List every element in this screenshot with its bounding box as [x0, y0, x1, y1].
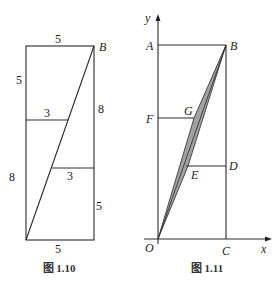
caption-left: 图 1.10	[43, 262, 77, 274]
label-point-c: C	[222, 244, 231, 258]
label-left-lower: 8	[9, 170, 15, 184]
label-right-lower: 5	[96, 199, 102, 213]
label-point-d: D	[228, 159, 238, 173]
label-mid-lower: 3	[67, 169, 73, 183]
label-point-o: O	[145, 241, 154, 255]
label-right-upper: 8	[98, 102, 104, 116]
diagonal-line	[26, 46, 94, 240]
label-bottom: 5	[55, 242, 61, 256]
label-point-g: G	[184, 104, 193, 118]
label-point-e: E	[190, 168, 199, 182]
label-left-upper: 5	[16, 73, 22, 87]
label-top: 5	[55, 32, 61, 46]
label-vertex-b: B	[99, 40, 107, 54]
label-point-a: A	[145, 39, 154, 53]
label-point-b: B	[230, 39, 238, 53]
label-x-axis: x	[260, 242, 267, 256]
x-axis-arrow-icon	[265, 237, 272, 242]
label-mid-upper: 3	[44, 106, 50, 120]
label-point-f: F	[145, 112, 154, 126]
diagonal-ob	[158, 45, 226, 239]
label-y-axis: y	[144, 11, 151, 25]
figure-1-10: 5 B 5 8 3 3 8 5 5 图 1.10	[9, 32, 107, 274]
caption-right: 图 1.11	[191, 262, 223, 274]
y-axis-arrow-icon	[156, 14, 161, 21]
diagram-canvas: 5 B 5 8 3 3 8 5 5 图 1.10 y A B F G E D	[0, 0, 280, 286]
figure-1-11: y A B F G E D O C x 图 1.11	[144, 11, 272, 274]
